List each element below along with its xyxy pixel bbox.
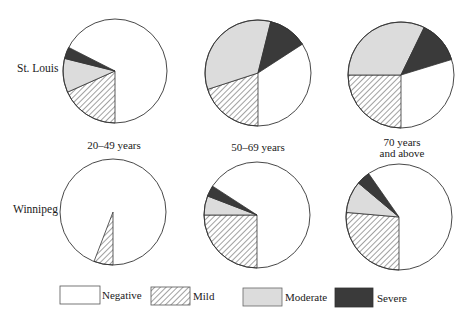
row-label-st-louis: St. Louis [17, 63, 59, 74]
pie-st-louis-0 [63, 19, 167, 123]
row-label-winnipeg: Winnipeg [13, 204, 58, 215]
legend-swatch-severe [335, 288, 373, 307]
column-label-70-plus-line2: and above [376, 148, 428, 158]
legend-swatch-negative [60, 286, 100, 304]
legend-swatch-mild [151, 287, 190, 305]
pie-winnipeg-4 [204, 162, 310, 268]
pie-st-louis-2 [348, 22, 454, 128]
legend-label-moderate: Moderate [285, 292, 327, 303]
column-label-20-49: 20–49 years [86, 140, 142, 151]
pie-winnipeg-5 [346, 164, 452, 270]
legend-label-mild: Mild [193, 291, 214, 302]
pie-winnipeg-3 [60, 159, 166, 265]
legend-label-negative: Negative [102, 290, 142, 301]
column-label-50-69: 50–69 years [230, 142, 286, 153]
column-label-70-plus-line1: 70 years [376, 137, 428, 147]
slice-mild [348, 75, 401, 128]
legend-swatch-moderate [243, 288, 282, 306]
legend-label-severe: Severe [377, 293, 407, 304]
slice-mild [346, 212, 399, 270]
slice-mild [204, 215, 257, 268]
pie-st-louis-1 [205, 20, 311, 126]
